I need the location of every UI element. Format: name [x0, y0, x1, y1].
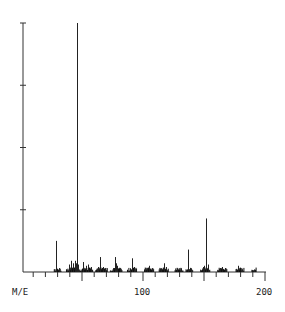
x-tick-label-200: 200	[256, 287, 272, 297]
spectrum-peaks	[57, 23, 255, 272]
x-tick-label-100: 100	[134, 287, 150, 297]
x-axis-label: M/E	[12, 287, 28, 297]
mass-spectrum-chart	[0, 0, 285, 312]
